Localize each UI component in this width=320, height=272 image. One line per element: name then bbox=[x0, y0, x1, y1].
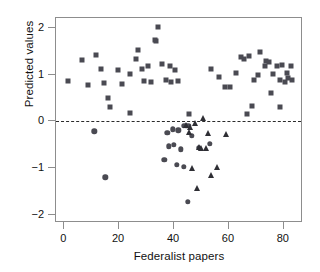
y-axis-tick bbox=[48, 27, 55, 28]
data-point-square bbox=[159, 61, 164, 66]
data-point-triangle bbox=[223, 131, 229, 137]
data-point-square bbox=[128, 110, 133, 115]
data-point-triangle bbox=[203, 145, 209, 151]
data-point-square bbox=[266, 60, 271, 65]
data-point-circle bbox=[178, 147, 183, 152]
data-point-square bbox=[247, 54, 252, 59]
data-point-square bbox=[85, 82, 90, 87]
data-point-triangle bbox=[200, 115, 206, 121]
x-axis-tick-label: 0 bbox=[60, 232, 66, 244]
data-point-square bbox=[80, 57, 85, 62]
data-point-square bbox=[241, 57, 246, 62]
data-point-square bbox=[233, 70, 238, 75]
data-point-square bbox=[99, 67, 104, 72]
data-point-circle bbox=[171, 142, 176, 147]
y-axis-tick bbox=[48, 74, 55, 75]
data-point-square bbox=[277, 105, 282, 110]
data-point-square bbox=[115, 68, 120, 73]
data-point-square bbox=[222, 85, 227, 90]
data-point-square bbox=[107, 104, 112, 109]
x-axis-label: Federalist papers bbox=[55, 250, 303, 262]
data-point-square bbox=[167, 64, 172, 69]
data-point-circle bbox=[181, 164, 186, 169]
y-axis-tick-label: −1 bbox=[31, 161, 44, 173]
data-point-square bbox=[209, 67, 214, 72]
x-axis-tick-label: 40 bbox=[167, 232, 179, 244]
data-point-square bbox=[258, 49, 263, 54]
data-point-triangle bbox=[194, 185, 200, 191]
y-axis-tick bbox=[48, 120, 55, 121]
x-axis-tick bbox=[63, 222, 64, 229]
data-point-square bbox=[288, 63, 293, 68]
data-point-square bbox=[93, 52, 98, 57]
data-point-triangle bbox=[214, 164, 220, 170]
x-axis-tick bbox=[118, 222, 119, 229]
data-point-triangle bbox=[205, 130, 211, 136]
y-axis-tick-label: 1 bbox=[38, 68, 44, 80]
data-point-square bbox=[169, 80, 174, 85]
data-point-triangle bbox=[186, 129, 192, 135]
data-point-square bbox=[148, 79, 153, 84]
data-point-circle bbox=[92, 129, 97, 134]
data-point-square bbox=[290, 78, 295, 83]
data-point-triangle bbox=[189, 165, 195, 171]
data-point-square bbox=[244, 112, 249, 117]
data-point-square bbox=[133, 57, 138, 62]
x-axis-tick-label: 60 bbox=[222, 232, 234, 244]
data-point-square bbox=[250, 103, 255, 108]
data-point-square bbox=[187, 111, 192, 116]
data-point-square bbox=[270, 71, 275, 76]
scatter-plot-figure: Predicted values Federalist papers 210−1… bbox=[0, 0, 320, 272]
x-axis-tick bbox=[283, 222, 284, 229]
data-point-square bbox=[228, 84, 233, 89]
y-axis-tick-label: 2 bbox=[38, 21, 44, 33]
y-axis-tick-label: −2 bbox=[31, 208, 44, 220]
data-point-square bbox=[274, 64, 279, 69]
x-axis-tick-label: 20 bbox=[112, 232, 124, 244]
data-point-square bbox=[176, 79, 181, 84]
data-point-square bbox=[155, 25, 160, 30]
y-axis-tick bbox=[48, 214, 55, 215]
data-point-square bbox=[128, 72, 133, 77]
data-point-circle bbox=[185, 199, 190, 204]
data-point-circle bbox=[174, 162, 179, 167]
y-axis-tick-label: 0 bbox=[38, 114, 44, 126]
data-point-circle bbox=[175, 128, 180, 133]
data-point-square bbox=[140, 67, 145, 72]
plot-area bbox=[55, 17, 302, 222]
data-point-square bbox=[277, 77, 282, 82]
data-point-circle bbox=[103, 175, 108, 180]
data-point-square bbox=[136, 48, 141, 53]
data-point-square bbox=[255, 72, 260, 77]
data-point-square bbox=[145, 64, 150, 69]
x-axis-tick bbox=[173, 222, 174, 229]
data-point-square bbox=[102, 81, 107, 86]
y-axis-tick bbox=[48, 167, 55, 168]
data-point-square bbox=[280, 62, 285, 67]
data-point-square bbox=[173, 67, 178, 72]
data-point-square bbox=[217, 74, 222, 79]
data-point-square bbox=[163, 78, 168, 83]
data-point-square bbox=[154, 38, 159, 43]
x-axis-tick bbox=[228, 222, 229, 229]
y-axis-label: Predicted values bbox=[23, 0, 35, 139]
zero-reference-line bbox=[56, 121, 301, 122]
x-axis-tick-label: 80 bbox=[277, 232, 289, 244]
data-point-square bbox=[269, 90, 274, 95]
data-point-square bbox=[119, 82, 124, 87]
data-point-circle bbox=[162, 157, 167, 162]
data-point-circle bbox=[164, 130, 169, 135]
data-point-square bbox=[141, 79, 146, 84]
data-point-triangle bbox=[208, 172, 214, 178]
data-point-square bbox=[66, 79, 71, 84]
data-point-square bbox=[251, 78, 256, 83]
data-point-square bbox=[106, 96, 111, 101]
